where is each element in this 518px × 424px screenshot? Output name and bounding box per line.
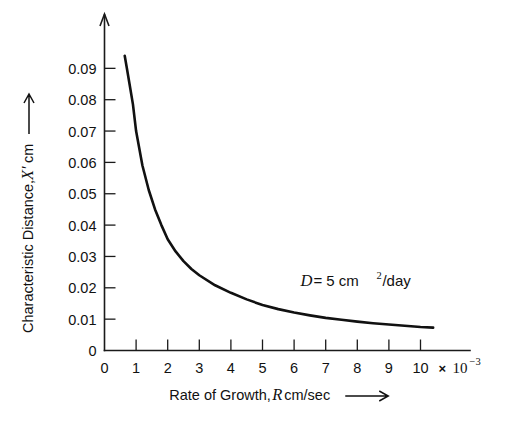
x-tick-label: 4 bbox=[227, 360, 235, 376]
y-axis-label-prefix: Characteristic Distance, bbox=[20, 180, 36, 333]
chart-figure: 01234567891000.010.020.030.040.050.060.0… bbox=[0, 0, 518, 424]
tick-marks-group bbox=[105, 68, 421, 350]
x-axis-label-prefix: Rate of Growth, bbox=[169, 387, 271, 403]
x-axis-label-suffix: cm/sec bbox=[284, 387, 330, 403]
y-tick-label: 0.09 bbox=[68, 61, 96, 77]
x-tick-label: 5 bbox=[258, 360, 266, 376]
x-axis-label-variable: R bbox=[271, 385, 282, 404]
x-axis-label-arrow-icon bbox=[345, 391, 388, 401]
y-tick-label: 0 bbox=[88, 343, 96, 359]
x-tick-label: 8 bbox=[353, 360, 361, 376]
annotation-variable: D bbox=[299, 271, 312, 290]
y-axis-label-suffix: cm bbox=[20, 144, 36, 163]
x-tick-label: 1 bbox=[132, 360, 140, 376]
y-axis-label: Characteristic Distance, X′ cm bbox=[18, 94, 37, 333]
annotation-units: /day bbox=[382, 272, 411, 289]
x-tick-label: 10 bbox=[412, 360, 428, 376]
y-tick-label: 0.05 bbox=[68, 186, 96, 202]
tick-labels-group: 01234567891000.010.020.030.040.050.060.0… bbox=[68, 61, 480, 376]
annotations-group: D = 5 cm2/day bbox=[299, 270, 411, 290]
y-axis-label-variable: X′ bbox=[18, 166, 37, 181]
x-tick-label: 6 bbox=[290, 360, 298, 376]
x-axis-multiplier-times-icon: × bbox=[439, 361, 447, 376]
y-tick-label: 0.02 bbox=[68, 280, 96, 296]
x-tick-label: 7 bbox=[322, 360, 330, 376]
x-tick-label: 3 bbox=[195, 360, 203, 376]
y-tick-label: 0.08 bbox=[68, 92, 96, 108]
y-tick-label: 0.06 bbox=[68, 155, 96, 171]
annotation-exponent: 2 bbox=[376, 270, 381, 281]
y-tick-label: 0.04 bbox=[68, 218, 96, 234]
chart-svg: 01234567891000.010.020.030.040.050.060.0… bbox=[0, 0, 518, 424]
y-axis-label-arrow-icon bbox=[24, 94, 34, 134]
y-tick-label: 0.07 bbox=[68, 124, 96, 140]
x-tick-label: 2 bbox=[164, 360, 172, 376]
y-tick-label: 0.03 bbox=[68, 249, 96, 265]
annotation-text: = 5 cm bbox=[313, 272, 358, 289]
x-tick-label: 9 bbox=[385, 360, 393, 376]
y-tick-label: 0.01 bbox=[68, 312, 96, 328]
x-tick-label: 0 bbox=[100, 360, 108, 376]
axes-group bbox=[100, 14, 470, 351]
x-axis-multiplier-exponent: −3 bbox=[470, 356, 481, 367]
x-axis-multiplier-base: 10 bbox=[453, 360, 468, 376]
